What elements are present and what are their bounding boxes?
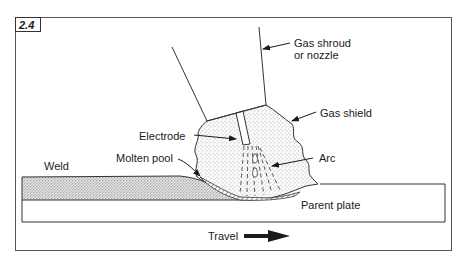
label-travel: Travel	[208, 230, 238, 242]
label-electrode: Electrode	[139, 130, 185, 142]
droplet-icon	[253, 168, 258, 177]
label-weld: Weld	[44, 160, 69, 172]
label-parent-plate: Parent plate	[301, 199, 360, 211]
label-gas-shield: Gas shield	[320, 107, 372, 119]
figure-number: 2.4	[18, 19, 34, 31]
gas-shroud-leader	[263, 43, 290, 49]
gas-shield-leader	[292, 112, 316, 121]
figure-number-box: 2.4	[16, 18, 41, 32]
droplet-icon	[253, 154, 258, 163]
travel-arrow-icon	[244, 230, 290, 242]
label-gas-shroud-line2: or nozzle	[294, 49, 339, 61]
nozzle-right-wall	[259, 27, 266, 105]
diagram-canvas: 2.4 Gas shroud or nozzle Gas shield Elec…	[0, 0, 464, 265]
label-arc: Arc	[319, 152, 336, 164]
label-gas-shroud-line1: Gas shroud	[294, 37, 351, 49]
nozzle-left-wall	[172, 47, 207, 121]
label-molten-pool: Molten pool	[116, 152, 173, 164]
